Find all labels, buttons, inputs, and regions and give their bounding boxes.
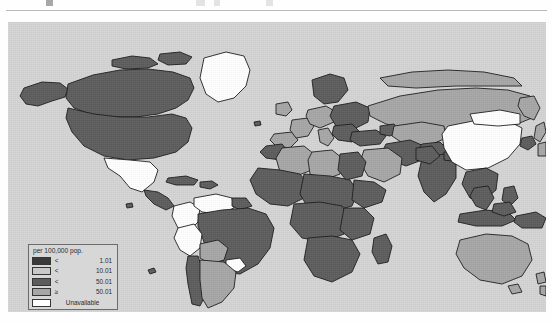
- clipped-header-mark: [214, 0, 220, 6]
- clipped-header-mark: [46, 0, 53, 6]
- legend-row-under-10.01: < 10.01: [32, 267, 114, 276]
- legend-value: 50.01: [62, 278, 114, 286]
- legend-value: 10.01: [62, 267, 114, 275]
- legend-title: per 100,000 pop.: [33, 247, 114, 255]
- region-island-speck: [148, 268, 156, 274]
- region-russia-arctic: [380, 70, 522, 88]
- region-canadian-arctic: [112, 56, 158, 69]
- region-canadian-arctic: [158, 52, 192, 65]
- region-tasmania: [508, 284, 522, 294]
- legend-swatch: [32, 299, 51, 307]
- region-island-speck: [254, 121, 261, 126]
- region-central-america: [144, 190, 174, 210]
- region-japan: [534, 122, 546, 142]
- region-peru: [174, 224, 202, 256]
- legend-operator: <: [51, 267, 62, 275]
- region-east-africa: [340, 208, 374, 240]
- region-cuba: [166, 176, 198, 185]
- region-greenland: [200, 52, 250, 102]
- region-hispaniola: [200, 181, 218, 189]
- region-saudi-arabia: [360, 148, 402, 182]
- legend-value: 1.01: [62, 257, 114, 265]
- header-divider: [6, 10, 547, 11]
- legend-value: Unavailable: [51, 299, 114, 307]
- region-new-zealand: [536, 272, 546, 284]
- region-argentina: [200, 260, 236, 308]
- region-island-speck: [126, 203, 133, 208]
- legend-row-under-50.01: < 50.01: [32, 277, 114, 286]
- region-china: [442, 120, 522, 170]
- region-australia: [456, 234, 532, 284]
- region-alaska: [20, 82, 68, 106]
- region-mexico: [104, 158, 158, 192]
- region-british-isles: [276, 102, 292, 116]
- region-madagascar: [372, 234, 392, 264]
- figure-page: per 100,000 pop. < 1.01 < 10.01 < 50.01 …: [0, 0, 553, 322]
- region-horn-of-africa: [352, 180, 386, 208]
- map-legend: per 100,000 pop. < 1.01 < 10.01 < 50.01 …: [28, 244, 118, 310]
- region-italy: [318, 128, 334, 146]
- legend-value: 50.01: [62, 288, 114, 296]
- legend-row-under-1.01: < 1.01: [32, 256, 114, 265]
- legend-row-over-50.01: ≥ 50.01: [32, 288, 114, 297]
- legend-operator: <: [51, 257, 62, 265]
- region-egypt: [338, 152, 366, 180]
- legend-operator: ≥: [51, 288, 62, 296]
- legend-swatch: [32, 257, 51, 265]
- region-canada: [66, 69, 194, 117]
- region-papua-new-guinea: [514, 212, 546, 228]
- legend-operator: <: [51, 278, 62, 286]
- region-japan: [538, 142, 546, 156]
- legend-swatch: [32, 278, 51, 286]
- legend-swatch: [32, 267, 51, 275]
- region-west-africa: [250, 168, 308, 206]
- region-southern-africa: [304, 236, 360, 282]
- region-scandinavia: [312, 74, 348, 104]
- legend-row-unavailable: Unavailable: [32, 298, 114, 307]
- world-choropleth-map: per 100,000 pop. < 1.01 < 10.01 < 50.01 …: [8, 22, 546, 312]
- region-new-zealand: [540, 286, 546, 296]
- clipped-header-mark: [266, 0, 273, 6]
- clipped-header-mark: [196, 0, 205, 6]
- legend-swatch: [32, 288, 51, 296]
